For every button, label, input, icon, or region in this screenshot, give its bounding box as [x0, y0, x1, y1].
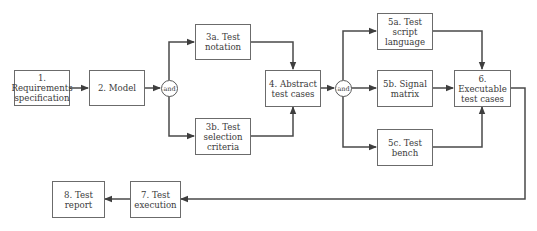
node-abstract-test-cases: 4. Abstract test cases — [265, 70, 321, 107]
node-label: 8. Test report — [64, 190, 93, 210]
edge-and2-to-5c — [343, 96, 376, 147]
node-signal-matrix: 5b. Signal matrix — [377, 70, 433, 107]
gate-label: and — [163, 85, 175, 93]
node-label: 3b. Test selection criteria — [203, 122, 242, 152]
node-label: 5c. Test bench — [388, 138, 422, 158]
node-label: 7. Test execution — [134, 190, 176, 210]
and-gate-2: and — [335, 80, 352, 97]
edge-and2-to-5a — [343, 31, 376, 80]
node-test-script-language: 5a. Test script language — [377, 13, 433, 50]
edge-5c-to-6 — [432, 107, 482, 147]
node-label: 5a. Test script language — [379, 17, 431, 47]
node-test-notation: 3a. Test notation — [195, 24, 251, 60]
edge-3a-to-4 — [251, 42, 293, 69]
node-model: 2. Model — [89, 70, 145, 106]
node-label: 4. Abstract test cases — [269, 79, 317, 99]
node-label: 5b. Signal matrix — [383, 79, 427, 99]
edge-5a-to-6 — [432, 31, 482, 69]
node-label: 6. Executable test cases — [456, 74, 509, 104]
node-test-bench: 5c. Test bench — [377, 129, 433, 166]
edge-and1-to-3a — [169, 42, 194, 80]
node-test-report: 8. Test report — [52, 181, 105, 218]
node-executable-test-cases: 6. Executable test cases — [454, 70, 511, 107]
gate-label: and — [337, 85, 349, 93]
node-test-execution: 7. Test execution — [130, 181, 181, 218]
node-label: 1. Requirements specification — [11, 73, 72, 103]
test-process-diagram: 1. Requirements specification 2. Model a… — [0, 0, 537, 231]
node-requirements-specification: 1. Requirements specification — [14, 70, 70, 106]
and-gate-1: and — [161, 80, 178, 97]
edge-3b-to-4 — [251, 107, 293, 136]
node-test-selection-criteria: 3b. Test selection criteria — [195, 118, 251, 155]
edge-and1-to-3b — [169, 96, 194, 136]
node-label: 2. Model — [98, 83, 136, 93]
node-label: 3a. Test notation — [205, 32, 241, 52]
